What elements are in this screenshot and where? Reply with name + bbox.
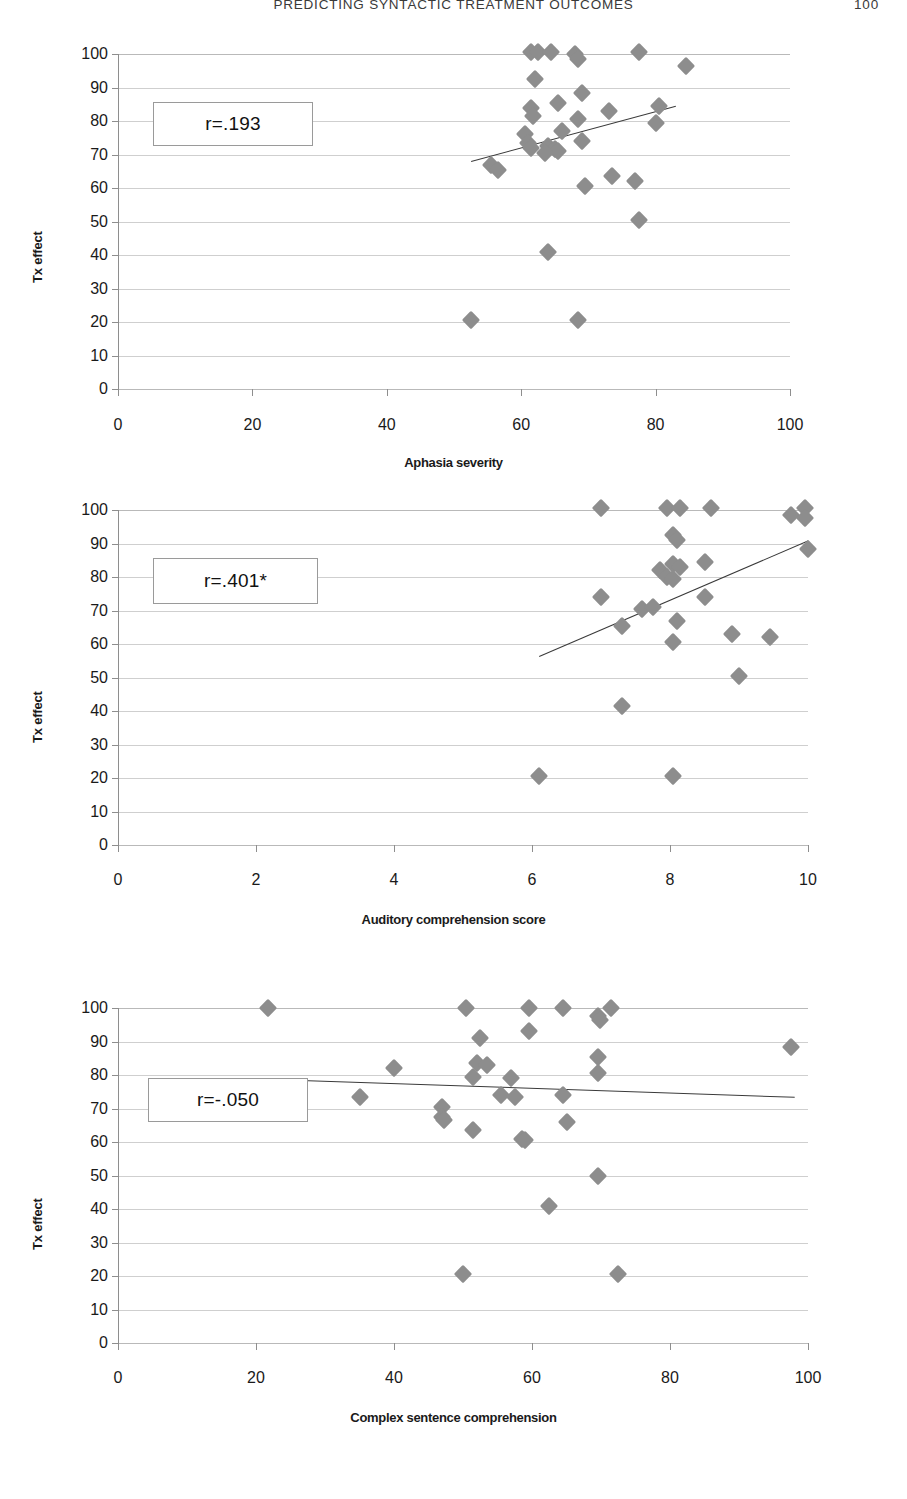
running-head: PREDICTING SYNTACTIC TREATMENT OUTCOMES … [0,0,907,12]
y-axis-line [118,54,119,389]
x-tick-mark [387,389,388,396]
x-axis-tick-label: 6 [528,871,537,889]
y-axis-title: Tx effect [30,231,45,283]
y-axis-tick-label: 100 [52,999,108,1017]
gridline-horizontal [118,1075,808,1076]
x-axis-tick-label: 4 [390,871,399,889]
x-tick-mark [790,389,791,396]
x-tick-mark [808,845,809,852]
gridline-horizontal [118,356,790,357]
y-axis-tick-label: 80 [52,1066,108,1084]
figure-aphasia-severity: 0102030405060708090100020406080100r=.193… [0,18,907,478]
gridline-horizontal [118,711,808,712]
y-axis-tick-label: 30 [52,736,108,754]
x-tick-mark [256,1343,257,1350]
gridline-horizontal [118,255,790,256]
correlation-annotation-box: r=.401* [153,558,318,604]
y-axis-tick-label: 60 [52,179,108,197]
y-axis-title: Tx effect [30,691,45,743]
x-axis-tick-label: 100 [777,416,804,434]
gridline-horizontal [118,1042,808,1043]
y-axis-tick-label: 30 [52,280,108,298]
gridline-horizontal [118,222,790,223]
y-axis-tick-label: 20 [52,1267,108,1285]
x-axis-title: Auditory comprehension score [0,912,907,927]
y-axis-tick-label: 40 [52,702,108,720]
y-axis-tick-label: 10 [52,1301,108,1319]
y-axis-tick-label: 100 [52,45,108,63]
y-axis-tick-label: 50 [52,213,108,231]
plot-wrapper: 0102030405060708090100020406080100r=.193… [0,18,907,478]
y-axis-tick-label: 0 [52,380,108,398]
x-tick-mark [394,1343,395,1350]
y-axis-tick-label: 0 [52,1334,108,1352]
gridline-horizontal [118,611,808,612]
y-axis-tick-label: 70 [52,146,108,164]
y-axis-tick-label: 90 [52,79,108,97]
gridline-horizontal [118,544,808,545]
x-tick-mark [118,1343,119,1350]
y-axis-tick-label: 20 [52,313,108,331]
gridline-horizontal [118,1310,808,1311]
gridline-horizontal [118,322,790,323]
gridline-horizontal [118,1209,808,1210]
x-axis-tick-label: 40 [378,416,396,434]
y-axis-tick-label: 80 [52,568,108,586]
x-axis-tick-label: 0 [114,871,123,889]
page-root: PREDICTING SYNTACTIC TREATMENT OUTCOMES … [0,0,907,1499]
y-axis-line [118,1008,119,1343]
y-axis-tick-label: 80 [52,112,108,130]
x-tick-mark [521,389,522,396]
gridline-horizontal [118,289,790,290]
x-axis-tick-label: 0 [114,1369,123,1387]
y-axis-tick-label: 50 [52,669,108,687]
gridline-horizontal [118,745,808,746]
x-axis-title: Aphasia severity [0,455,907,470]
y-axis-tick-label: 50 [52,1167,108,1185]
x-tick-mark [670,845,671,852]
x-tick-mark [118,389,119,396]
y-axis-tick-label: 30 [52,1234,108,1252]
gridline-horizontal [118,678,808,679]
y-axis-tick-label: 90 [52,1033,108,1051]
y-axis-tick-label: 10 [52,347,108,365]
x-axis-tick-label: 20 [243,416,261,434]
gridline-horizontal [118,1243,808,1244]
x-axis-tick-label: 20 [247,1369,265,1387]
figure-auditory-comprehension: 01020304050607080901000246810r=.401*Tx e… [0,488,907,958]
x-tick-mark [394,845,395,852]
gridline-horizontal [118,188,790,189]
x-tick-mark [118,845,119,852]
x-axis-tick-label: 2 [252,871,261,889]
y-axis-tick-label: 60 [52,1133,108,1151]
y-axis-tick-label: 0 [52,836,108,854]
y-axis-tick-label: 100 [52,501,108,519]
gridline-horizontal [118,1176,808,1177]
x-tick-mark [532,845,533,852]
x-axis-tick-label: 80 [661,1369,679,1387]
x-axis-tick-label: 8 [666,871,675,889]
x-tick-mark [532,1343,533,1350]
x-tick-mark [656,389,657,396]
x-tick-mark [670,1343,671,1350]
y-axis-tick-label: 60 [52,635,108,653]
y-axis-tick-label: 40 [52,246,108,264]
correlation-annotation-box: r=-.050 [148,1078,308,1122]
running-head-title: PREDICTING SYNTACTIC TREATMENT OUTCOMES [273,0,633,12]
x-tick-mark [256,845,257,852]
plot-area [118,1008,808,1343]
gridline-horizontal [118,812,808,813]
gridline-horizontal [118,778,808,779]
gridline-horizontal [118,155,790,156]
y-axis-tick-label: 90 [52,535,108,553]
x-axis-tick-label: 60 [523,1369,541,1387]
figure-complex-sentence-comprehension: 0102030405060708090100020406080100r=-.05… [0,960,907,1440]
gridline-horizontal [118,389,790,390]
x-axis-tick-label: 60 [512,416,530,434]
y-axis-tick-label: 70 [52,1100,108,1118]
y-axis-tick-label: 40 [52,1200,108,1218]
gridline-horizontal [118,644,808,645]
plot-wrapper: 0102030405060708090100020406080100r=-.05… [0,960,907,1440]
x-axis-tick-label: 40 [385,1369,403,1387]
x-axis-tick-label: 0 [114,416,123,434]
